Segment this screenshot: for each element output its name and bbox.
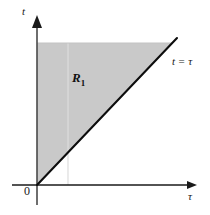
origin-label: 0 bbox=[24, 185, 30, 197]
region-label-r1: R1 bbox=[72, 70, 85, 88]
boundary-line-label: t=τ bbox=[172, 56, 193, 67]
tau-axis-arrowhead bbox=[187, 181, 197, 189]
eq-rhs: τ bbox=[188, 55, 192, 67]
tau-axis-label: τ bbox=[188, 191, 192, 202]
math-diagram-figure: t τ 0 t=τ R1 bbox=[0, 0, 210, 215]
diagram-canvas bbox=[0, 0, 210, 215]
eq-lhs: t bbox=[172, 55, 176, 67]
t-axis-label: t bbox=[22, 6, 25, 17]
t-axis-arrowhead bbox=[32, 15, 42, 28]
region-label-subscript: 1 bbox=[81, 78, 86, 88]
region-label-letter: R bbox=[72, 70, 81, 85]
eq-sign: = bbox=[179, 55, 186, 67]
